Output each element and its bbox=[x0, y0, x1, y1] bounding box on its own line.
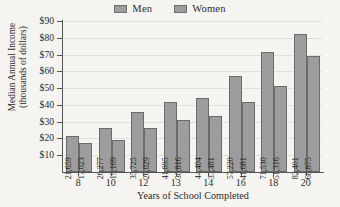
x-axis-title: Years of School Completed bbox=[62, 191, 324, 201]
gridline bbox=[62, 55, 322, 56]
bar-value-label: 71,530 bbox=[260, 157, 268, 179]
y-tick-mark bbox=[57, 122, 62, 123]
bar-men-20: 82,401 bbox=[294, 34, 307, 172]
x-tick-mark bbox=[306, 172, 307, 176]
bar-women-14: 33,481 bbox=[209, 116, 222, 172]
bar-value-label: 21,659 bbox=[65, 157, 73, 179]
x-tick-mark bbox=[241, 172, 242, 176]
chart-figure: Men Women Median Annual Income (thousand… bbox=[0, 0, 340, 207]
bar-women-18: 51,316 bbox=[274, 86, 287, 172]
gridline bbox=[62, 21, 322, 22]
y-tick-mark bbox=[57, 71, 62, 72]
y-tick-mark bbox=[57, 21, 62, 22]
bar-women-20: 68,875 bbox=[307, 56, 320, 172]
bar-women-8: 17,023 bbox=[79, 143, 92, 172]
x-tick-label-12: 12 bbox=[126, 178, 160, 188]
x-tick-mark bbox=[273, 172, 274, 176]
y-tick-label: $10 bbox=[24, 150, 54, 160]
bar-women-12: 26,029 bbox=[144, 128, 157, 172]
gridline bbox=[62, 38, 322, 39]
bar-women-16: 41,681 bbox=[242, 102, 255, 172]
bar-men-18: 71,530 bbox=[261, 52, 274, 172]
legend-item-women: Women bbox=[174, 4, 225, 15]
y-tick-label: $90 bbox=[24, 16, 54, 26]
y-tick-label: $50 bbox=[24, 83, 54, 93]
plot-area: 21,65917,02326,27719,16935,72526,02941,8… bbox=[62, 21, 322, 172]
y-tick-mark bbox=[57, 138, 62, 139]
x-tick-label-14: 14 bbox=[191, 178, 225, 188]
gridline bbox=[62, 71, 322, 72]
legend-swatch-women bbox=[174, 5, 187, 13]
y-tick-label: $70 bbox=[24, 50, 54, 60]
x-tick-label-8: 8 bbox=[61, 178, 95, 188]
x-tick-label-18: 18 bbox=[256, 178, 290, 188]
bar-value-label: 35,725 bbox=[130, 157, 138, 179]
y-tick-label: $30 bbox=[24, 117, 54, 127]
bar-women-13: 30,816 bbox=[177, 120, 190, 172]
y-tick-label: $20 bbox=[24, 133, 54, 143]
bar-value-label: 41,895 bbox=[162, 157, 170, 179]
y-tick-label: $80 bbox=[24, 33, 54, 43]
y-tick-mark bbox=[57, 88, 62, 89]
x-tick-label-20: 20 bbox=[289, 178, 323, 188]
x-tick-label-16: 16 bbox=[224, 178, 258, 188]
x-tick-label-13: 13 bbox=[159, 178, 193, 188]
bar-value-label: 44,404 bbox=[195, 157, 203, 179]
y-axis-title-line1: Median Annual Income bbox=[7, 23, 18, 112]
legend-label-women: Women bbox=[192, 4, 225, 15]
legend-item-men: Men bbox=[114, 4, 152, 15]
x-tick-mark bbox=[143, 172, 144, 176]
x-axis-line bbox=[62, 172, 324, 173]
x-tick-mark bbox=[111, 172, 112, 176]
bar-value-label: 26,277 bbox=[97, 157, 105, 179]
y-tick-mark bbox=[57, 38, 62, 39]
legend-swatch-men bbox=[114, 5, 127, 13]
bar-value-label: 82,401 bbox=[292, 157, 300, 179]
x-tick-mark bbox=[208, 172, 209, 176]
x-tick-mark bbox=[78, 172, 79, 176]
y-tick-mark bbox=[57, 155, 62, 156]
y-axis-line bbox=[62, 20, 63, 173]
bar-value-label: 57,220 bbox=[227, 157, 235, 179]
y-tick-mark bbox=[57, 105, 62, 106]
y-tick-mark bbox=[57, 55, 62, 56]
x-tick-label-10: 10 bbox=[94, 178, 128, 188]
x-tick-mark bbox=[176, 172, 177, 176]
y-tick-label: $60 bbox=[24, 66, 54, 76]
bar-women-10: 19,169 bbox=[112, 140, 125, 172]
y-tick-label: $40 bbox=[24, 100, 54, 110]
legend-label-men: Men bbox=[132, 4, 152, 15]
